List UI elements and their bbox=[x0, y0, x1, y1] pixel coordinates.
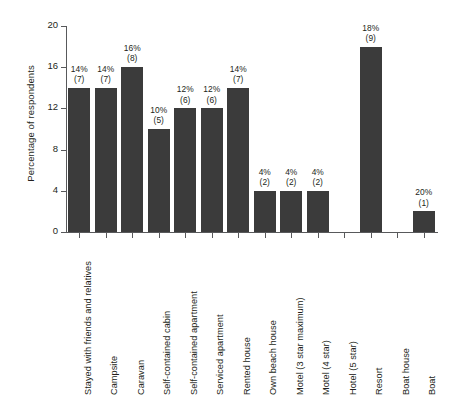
x-tick-mark bbox=[132, 233, 133, 238]
y-tick-label: 0 bbox=[53, 225, 58, 236]
bar-value-label: 14%(7) bbox=[97, 64, 114, 84]
bar-value-count: (1) bbox=[415, 198, 432, 208]
x-axis-label: Own beach house bbox=[268, 320, 278, 395]
bar-item[interactable]: 14%(7) bbox=[95, 26, 117, 232]
bar-value-label: 10%(5) bbox=[150, 105, 167, 125]
bar[interactable] bbox=[201, 108, 223, 232]
bar-value-count: (8) bbox=[124, 53, 141, 63]
bar-item[interactable]: 10%(5) bbox=[148, 26, 170, 232]
x-axis-label: Boat house bbox=[401, 348, 411, 395]
bar-chart: Percentage of respondents 048121620 14%(… bbox=[0, 0, 460, 403]
y-axis-line bbox=[66, 26, 67, 233]
bar-value-label: 20%(1) bbox=[415, 187, 432, 207]
bar-value-percent: 4% bbox=[312, 167, 324, 177]
bar-value-label: 16%(8) bbox=[124, 43, 141, 63]
bar-value-percent: 14% bbox=[71, 64, 88, 74]
y-tick-label: 4 bbox=[53, 184, 58, 195]
bar-value-count: (9) bbox=[362, 33, 379, 43]
bar-item[interactable] bbox=[386, 26, 408, 232]
bar[interactable] bbox=[254, 191, 276, 232]
bar-value-label: 4%(2) bbox=[312, 167, 324, 187]
y-axis-title: Percentage of respondents bbox=[25, 24, 36, 224]
bar-value-percent: 14% bbox=[97, 64, 114, 74]
x-axis-label: Serviced apartment bbox=[215, 314, 225, 395]
bar-value-count: (2) bbox=[259, 177, 271, 187]
y-tick-label: 16 bbox=[47, 60, 58, 71]
x-tick-mark bbox=[79, 233, 80, 238]
x-axis-labels: Stayed with friends and relativesCampsit… bbox=[66, 240, 437, 400]
bar-value-count: (2) bbox=[285, 177, 297, 187]
x-axis-label: Stayed with friends and relatives bbox=[83, 261, 93, 395]
bar-item[interactable]: 4%(2) bbox=[280, 26, 302, 232]
y-tick-mark bbox=[61, 108, 66, 109]
bar[interactable] bbox=[413, 211, 435, 232]
bar-value-percent: 18% bbox=[362, 23, 379, 33]
y-tick-label: 12 bbox=[47, 101, 58, 112]
bar-value-label: 12%(6) bbox=[177, 84, 194, 104]
x-tick-mark bbox=[106, 233, 107, 238]
bar-item[interactable]: 4%(2) bbox=[254, 26, 276, 232]
bar-value-label: 18%(9) bbox=[362, 23, 379, 43]
bar-value-percent: 20% bbox=[415, 187, 432, 197]
bar-value-percent: 12% bbox=[177, 84, 194, 94]
bar-value-label: 12%(6) bbox=[203, 84, 220, 104]
bar-item[interactable]: 12%(6) bbox=[201, 26, 223, 232]
bar-item[interactable]: 18%(9) bbox=[360, 26, 382, 232]
bar[interactable] bbox=[174, 108, 196, 232]
bar-value-count: (6) bbox=[177, 95, 194, 105]
bar-value-label: 4%(2) bbox=[285, 167, 297, 187]
bar-value-count: (5) bbox=[150, 115, 167, 125]
x-axis-label: Caravan bbox=[136, 360, 146, 395]
bar-value-percent: 16% bbox=[124, 43, 141, 53]
bar[interactable] bbox=[360, 47, 382, 232]
x-axis-label: Campsite bbox=[109, 356, 119, 395]
bar[interactable] bbox=[95, 88, 117, 232]
y-tick-label: 8 bbox=[53, 143, 58, 154]
bar-value-count: (7) bbox=[71, 74, 88, 84]
x-axis-label: Hotel (5 star) bbox=[348, 341, 358, 395]
bar-value-label: 4%(2) bbox=[259, 167, 271, 187]
bar-value-label: 14%(7) bbox=[230, 64, 247, 84]
bar-item[interactable]: 12%(6) bbox=[174, 26, 196, 232]
x-tick-mark bbox=[159, 233, 160, 238]
bar-item[interactable] bbox=[333, 26, 355, 232]
x-tick-mark bbox=[238, 233, 239, 238]
y-tick-label: 20 bbox=[47, 19, 58, 30]
bar[interactable] bbox=[280, 191, 302, 232]
bar-value-percent: 4% bbox=[285, 167, 297, 177]
bar-item[interactable]: 14%(7) bbox=[227, 26, 249, 232]
x-tick-mark bbox=[424, 233, 425, 238]
bar-item[interactable]: 14%(7) bbox=[68, 26, 90, 232]
bar[interactable] bbox=[68, 88, 90, 232]
x-tick-mark bbox=[344, 233, 345, 238]
plot-area: 048121620 14%(7)14%(7)16%(8)10%(5)12%(6)… bbox=[66, 26, 437, 232]
bar[interactable] bbox=[227, 88, 249, 232]
bar-value-count: (2) bbox=[312, 177, 324, 187]
bar-value-percent: 4% bbox=[259, 167, 271, 177]
x-axis-label: Motel (4 star) bbox=[321, 340, 331, 395]
x-tick-mark bbox=[291, 233, 292, 238]
bar-value-count: (7) bbox=[97, 74, 114, 84]
x-tick-mark bbox=[212, 233, 213, 238]
bar-value-percent: 10% bbox=[150, 105, 167, 115]
bar-value-percent: 14% bbox=[230, 64, 247, 74]
y-tick-mark bbox=[61, 150, 66, 151]
x-axis-label: Boat bbox=[427, 376, 437, 395]
x-axis-label: Motel (3 star maximum) bbox=[295, 297, 305, 395]
x-axis-label: Self-contained cabin bbox=[162, 311, 172, 395]
x-axis-label: Rented house bbox=[242, 337, 252, 395]
bar[interactable] bbox=[121, 67, 143, 232]
x-tick-mark bbox=[265, 233, 266, 238]
bar-value-label: 14%(7) bbox=[71, 64, 88, 84]
x-tick-mark bbox=[318, 233, 319, 238]
x-tick-mark bbox=[371, 233, 372, 238]
bar-item[interactable]: 16%(8) bbox=[121, 26, 143, 232]
x-tick-mark bbox=[185, 233, 186, 238]
bar[interactable] bbox=[307, 191, 329, 232]
bar-item[interactable]: 4%(2) bbox=[307, 26, 329, 232]
y-tick-mark bbox=[61, 232, 66, 233]
bar-item[interactable]: 20%(1) bbox=[413, 26, 435, 232]
y-tick-mark bbox=[61, 67, 66, 68]
x-axis-label: Resort bbox=[374, 368, 384, 395]
bar[interactable] bbox=[148, 129, 170, 232]
